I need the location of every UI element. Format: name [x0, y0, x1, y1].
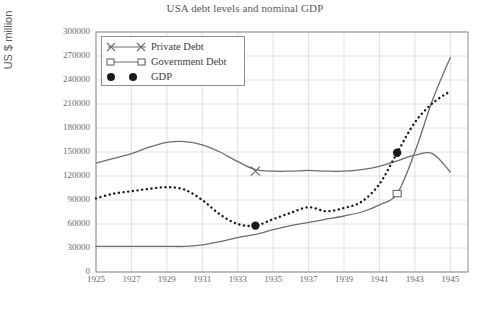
chart-container: USA debt levels and nominal GDP US $ mil…	[0, 0, 490, 315]
x-axis-tick-label: 1943	[395, 274, 435, 284]
x-axis-tick-label: 1925	[76, 274, 116, 284]
x-axis-tick-label: 1945	[430, 274, 470, 284]
y-axis-tick-label: 90000	[34, 194, 90, 204]
x-axis-tick-label: 1939	[324, 274, 364, 284]
legend-label-government-debt: Government Debt	[149, 56, 227, 67]
y-axis-tick-label: 150000	[34, 146, 90, 156]
x-marker-icon	[105, 40, 149, 54]
y-axis-tick-label: 240000	[34, 74, 90, 84]
y-axis-tick-label: 120000	[34, 170, 90, 180]
legend-item-private-debt: Private Debt	[105, 39, 241, 54]
y-axis-tick-label: 30000	[34, 242, 90, 252]
legend-item-government-debt: Government Debt	[105, 54, 241, 69]
y-axis-tick-label: 60000	[34, 218, 90, 228]
y-axis-tick-label: 300000	[34, 26, 90, 36]
y-axis-title: US $ million	[2, 0, 14, 100]
legend-item-gdp: GDP	[105, 69, 241, 84]
x-axis-tick-label: 1941	[359, 274, 399, 284]
x-axis-tick-label: 1937	[289, 274, 329, 284]
y-axis-tick-label: 270000	[34, 50, 90, 60]
data-marker-private-debt	[251, 167, 260, 176]
legend-label-gdp: GDP	[149, 71, 172, 82]
square-marker-icon	[105, 55, 149, 69]
y-axis-tick-label: 180000	[34, 122, 90, 132]
data-marker-gdp	[251, 221, 259, 229]
x-axis-tick-label: 1929	[147, 274, 187, 284]
x-axis-tick-label: 1933	[218, 274, 258, 284]
data-marker-gdp	[393, 149, 401, 157]
chart-legend: Private Debt Government Debt GDP	[101, 36, 245, 86]
legend-label-private-debt: Private Debt	[149, 41, 204, 52]
x-axis-tick-label: 1927	[111, 274, 151, 284]
x-axis-tick-label: 1931	[182, 274, 222, 284]
data-marker-government-debt	[393, 190, 401, 196]
y-axis-tick-labels: 0300006000090000120000150000180000210000…	[32, 0, 90, 315]
x-axis-tick-label: 1935	[253, 274, 293, 284]
y-axis-tick-label: 210000	[34, 98, 90, 108]
circle-marker-icon	[105, 70, 149, 84]
